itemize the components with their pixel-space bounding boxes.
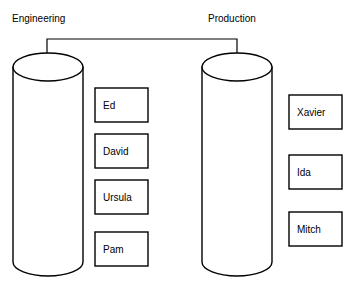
entity-box-label: Xavier [297,107,326,118]
cylinder-production[interactable] [202,53,272,276]
entity-box-label: Ursula [103,192,132,203]
cylinder-body-production [202,67,272,276]
group-label-engineering: Engineering [12,13,65,24]
member-list-production: Xavier Ida Mitch [289,95,342,246]
group-engineering: Engineering Ed David Ursula [12,13,148,276]
cylinder-body-engineering [13,67,83,276]
member-box-ursula[interactable]: Ursula [95,180,148,214]
group-label-production: Production [208,13,256,24]
entity-box-label: Ida [297,167,311,178]
cylinder-top-engineering [13,53,83,81]
diagram-svg: Engineering Ed David Ursula [0,0,356,290]
member-box-xavier[interactable]: Xavier [289,95,342,129]
cylinder-top-production [202,53,272,81]
member-box-pam[interactable]: Pam [95,232,148,266]
member-box-ed[interactable]: Ed [95,88,148,122]
entity-box-label: Pam [103,244,124,255]
member-list-engineering: Ed David Ursula Pam [95,88,148,266]
group-production: Production Xavier Ida Mitch [202,13,342,276]
diagram-canvas: Engineering Ed David Ursula [0,0,356,290]
member-box-david[interactable]: David [95,134,148,168]
entity-box-label: Mitch [297,224,321,235]
entity-box-label: David [103,146,129,157]
member-box-ida[interactable]: Ida [289,155,342,189]
member-box-mitch[interactable]: Mitch [289,212,342,246]
entity-box-label: Ed [103,100,115,111]
cylinder-engineering[interactable] [13,53,83,276]
